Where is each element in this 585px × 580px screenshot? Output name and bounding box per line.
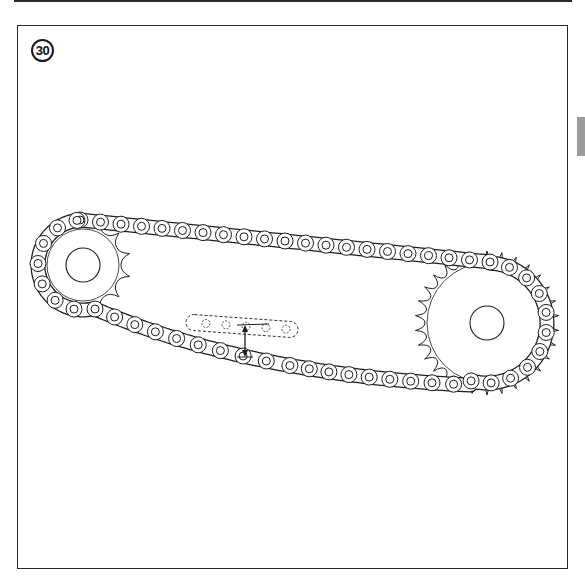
chain-roller [240, 233, 248, 241]
chain-roller [220, 231, 228, 239]
chain-roller [73, 216, 81, 224]
chain-roller [173, 335, 181, 343]
chain-roller [194, 341, 202, 349]
chain-roller [536, 348, 544, 356]
chain-roller [111, 313, 119, 321]
chain-roller [524, 363, 532, 371]
chain-roller [425, 252, 433, 260]
chain-roller [407, 377, 415, 385]
chain-roller [523, 274, 531, 282]
chain-roller [179, 227, 187, 235]
chain-roller [507, 374, 515, 382]
chain-roller [51, 296, 59, 304]
chain-roller [70, 305, 78, 313]
chain-roller [91, 305, 99, 313]
chain-roller [542, 308, 550, 316]
chain-roller [428, 379, 436, 387]
chain-roller [158, 224, 166, 232]
sprocket-hub [470, 306, 504, 340]
chain-roller [404, 250, 412, 258]
rear-sprocket [415, 251, 558, 395]
chain-roller [54, 224, 62, 232]
chain-roller [322, 241, 330, 249]
chain-roller [386, 375, 394, 383]
chain-roller [286, 362, 294, 370]
sprocket-hub [66, 248, 100, 282]
chain-roller [117, 220, 125, 228]
chain-roller [261, 235, 269, 243]
chain-roller [445, 254, 453, 262]
chain-roller [542, 329, 550, 337]
chain-roller [506, 263, 514, 271]
chain-roller [384, 248, 392, 256]
chain-roller [262, 357, 270, 365]
chain-roller [302, 239, 310, 247]
chain-roller [34, 260, 42, 268]
chain-roller [486, 258, 494, 266]
chain-roller [450, 380, 458, 388]
chain-roller [38, 280, 46, 288]
chain-roller [199, 229, 207, 237]
chain-roller [138, 222, 146, 230]
chain-roller [305, 365, 313, 373]
chain-roller [467, 377, 475, 385]
chain-roller [535, 290, 543, 298]
chain-roller [131, 321, 139, 329]
chain-roller [365, 373, 373, 381]
chain-roller [216, 347, 224, 355]
chain-drive-illustration [0, 0, 585, 580]
chain-roller [281, 237, 289, 245]
chain-roller [40, 239, 48, 247]
dashed-raised-chain [185, 314, 298, 338]
chain-roller [363, 245, 371, 253]
chain-roller [466, 256, 474, 264]
chain-roller [345, 371, 353, 379]
chain-roller [325, 368, 333, 376]
chain-roller [343, 243, 351, 251]
chain-roller [151, 328, 159, 336]
chain-roller [487, 379, 495, 387]
chain-roller [97, 218, 105, 226]
